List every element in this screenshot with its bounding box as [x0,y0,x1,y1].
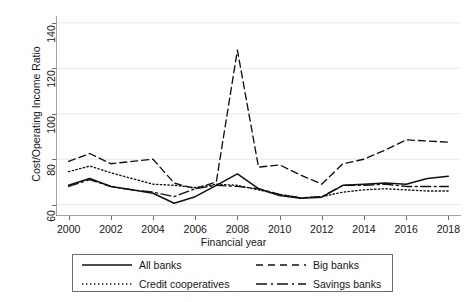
x-tick-label: 2014 [352,223,375,235]
y-tick-mark [52,114,56,115]
x-tick-mark [111,216,112,220]
x-tick-mark [322,216,323,220]
x-tick-mark [153,216,154,220]
x-tick-mark [195,216,196,220]
legend-label: Savings banks [313,278,381,290]
x-tick-mark [69,216,70,220]
legend-item-savings-banks[interactable]: Savings banks [247,278,392,290]
legend-item-big-banks[interactable]: Big banks [247,259,392,271]
x-tick-label: 2000 [57,223,80,235]
x-tick-label: 2006 [184,223,207,235]
legend-key-solid-icon [81,259,133,271]
chart-figure: Cost/Operating Income Ratio Financial ye… [0,0,467,302]
y-tick-mark [52,159,56,160]
series-line-credit-cooperatives [69,166,449,198]
y-tick-mark [52,68,56,69]
plot-area: 6080100120140 20002002200420062008201020… [56,16,461,216]
chart-svg [56,16,461,216]
legend-key-dashdot-icon [255,278,307,290]
x-tick-label: 2012 [310,223,333,235]
y-tick-label: 120 [45,67,57,91]
legend-label: All banks [139,259,182,271]
y-tick-label: 60 [45,204,57,228]
x-tick-label: 2008 [226,223,249,235]
x-tick-label: 2004 [141,223,164,235]
y-axis-title: Cost/Operating Income Ratio [30,14,42,214]
legend-label: Big banks [313,259,359,271]
x-axis-title: Financial year [0,236,467,248]
y-tick-mark [52,205,56,206]
y-tick-label: 140 [45,22,57,46]
legend-item-credit-cooperatives[interactable]: Credit cooperatives [73,278,247,290]
x-tick-mark [280,216,281,220]
series-line-big-banks [69,50,449,189]
chart-legend: All banks Big banks Credit cooperatives … [72,254,393,292]
x-tick-label: 2010 [268,223,291,235]
legend-key-dashed-icon [255,259,307,271]
x-tick-label: 2002 [99,223,122,235]
x-tick-mark [406,216,407,220]
legend-item-all-banks[interactable]: All banks [73,259,247,271]
x-tick-label: 2018 [437,223,460,235]
legend-row: All banks Big banks [73,255,392,274]
y-tick-label: 80 [45,158,57,182]
legend-key-dotted-icon [81,278,133,290]
y-tick-mark [52,23,56,24]
y-tick-label: 100 [45,113,57,137]
x-tick-mark [364,216,365,220]
legend-row: Credit cooperatives Savings banks [73,274,392,293]
x-tick-label: 2016 [394,223,417,235]
x-tick-mark [448,216,449,220]
x-tick-mark [237,216,238,220]
legend-label: Credit cooperatives [139,278,229,290]
